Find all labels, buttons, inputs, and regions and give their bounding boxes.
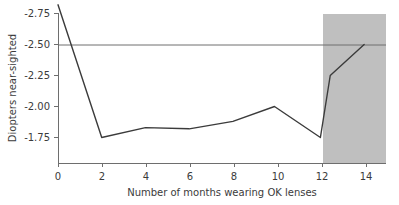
y-axis-ticks (54, 14, 58, 138)
y-tick-label: -1.75 (24, 132, 50, 143)
x-tick-label: 6 (187, 171, 193, 182)
x-axis-tick-labels: 0 2 4 6 8 10 12 14 (55, 171, 373, 182)
y-tick-label: -2.25 (24, 70, 50, 81)
x-tick-label: 4 (143, 171, 149, 182)
y-axis-tick-labels: -2.75 -2.50 -2.25 -2.00 -1.75 (24, 8, 50, 143)
y-axis-title: Diopters near-sighted (7, 34, 18, 142)
data-series-line (58, 5, 364, 138)
x-tick-label: 10 (272, 171, 285, 182)
y-tick-label: -2.00 (24, 101, 50, 112)
chart-figure: -2.75 -2.50 -2.25 -2.00 -1.75 0 2 4 6 8 … (0, 0, 399, 205)
x-tick-label: 8 (231, 171, 237, 182)
x-tick-label: 12 (316, 171, 329, 182)
x-tick-label: 2 (99, 171, 105, 182)
line-chart: -2.75 -2.50 -2.25 -2.00 -1.75 0 2 4 6 8 … (0, 0, 399, 205)
y-tick-label: -2.75 (24, 8, 50, 19)
x-axis-title: Number of months wearing OK lenses (127, 187, 317, 198)
x-tick-label: 14 (360, 171, 373, 182)
y-tick-label: -2.50 (24, 39, 50, 50)
x-tick-label: 0 (55, 171, 61, 182)
shaded-region-post-treatment (323, 14, 386, 163)
